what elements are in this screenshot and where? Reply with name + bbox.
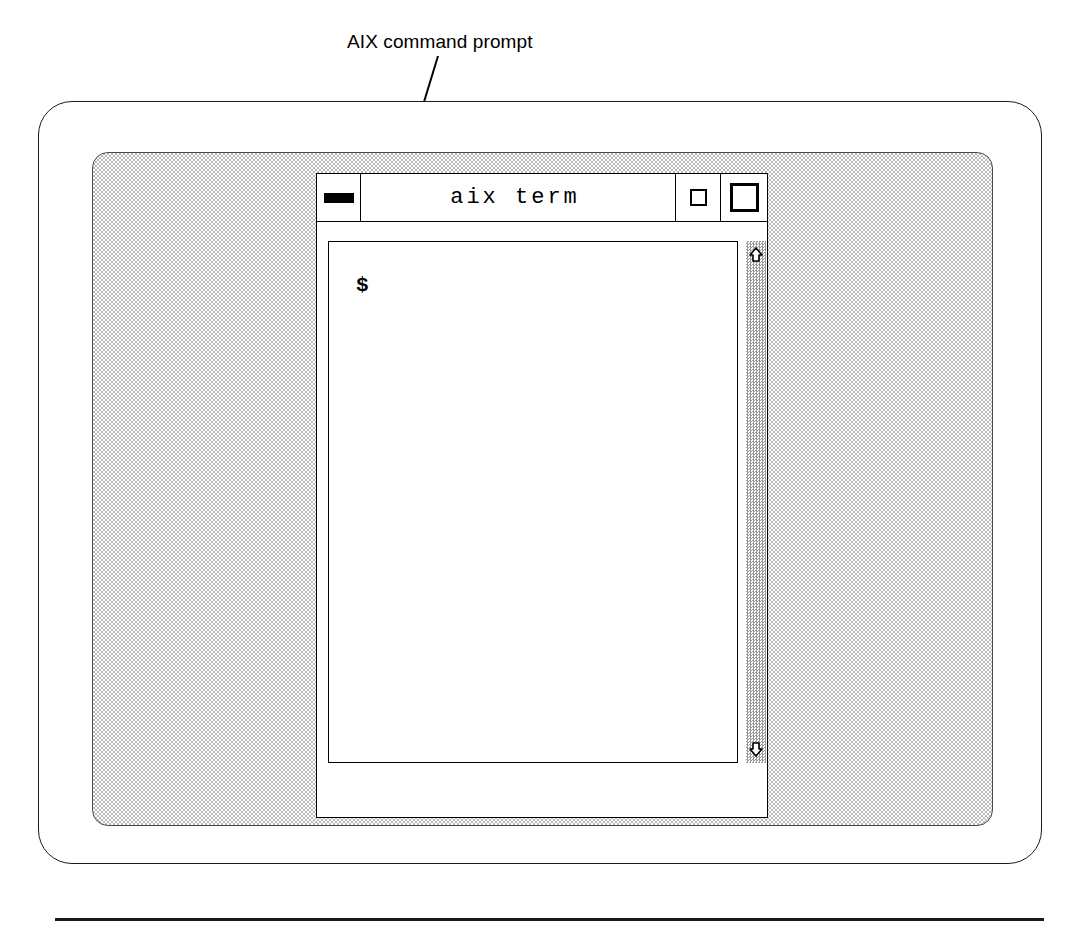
scroll-up-button[interactable] bbox=[747, 245, 765, 265]
figure-page: AIX command prompt aix term $ bbox=[0, 0, 1081, 928]
minimize-bar-icon bbox=[324, 193, 354, 203]
terminal-text-area[interactable]: $ bbox=[328, 241, 738, 763]
maximize-button[interactable] bbox=[720, 174, 767, 221]
scroll-down-button[interactable] bbox=[747, 739, 765, 759]
terminal-scrollbar[interactable] bbox=[746, 241, 766, 763]
scroll-up-arrow-icon bbox=[748, 246, 764, 264]
window-title: aix term bbox=[361, 174, 675, 221]
command-prompt: $ bbox=[356, 275, 369, 296]
restore-button[interactable] bbox=[675, 174, 720, 221]
restore-square-icon bbox=[690, 189, 707, 206]
terminal-titlebar[interactable]: aix term bbox=[317, 174, 767, 222]
minimize-button[interactable] bbox=[317, 174, 361, 221]
terminal-window[interactable]: aix term $ bbox=[316, 173, 768, 818]
scroll-down-arrow-icon bbox=[748, 740, 764, 758]
maximize-square-icon bbox=[730, 183, 759, 212]
callout-label: AIX command prompt bbox=[347, 30, 533, 54]
page-bottom-rule bbox=[55, 918, 1044, 921]
